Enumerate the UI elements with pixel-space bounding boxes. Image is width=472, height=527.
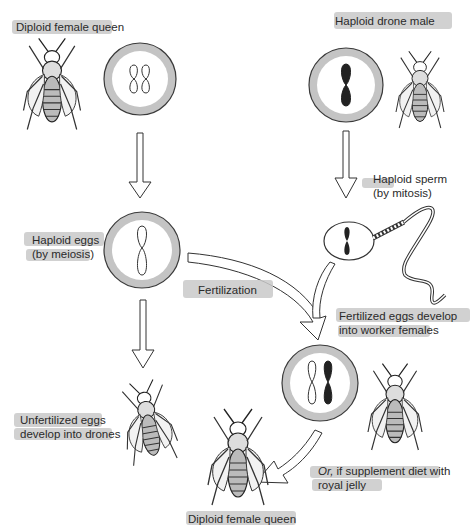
arrow-sperm-to-worker <box>313 262 335 318</box>
arrow-eggs-to-drone <box>132 300 154 368</box>
diagram-graphics <box>0 0 472 527</box>
haplodiploidy-diagram: Diploid female queen Haploid drone male … <box>0 0 472 527</box>
queen-parent-cell <box>104 43 176 115</box>
label-queen-offspring: Diploid female queen <box>188 512 296 526</box>
drone-parent-bee <box>396 51 444 128</box>
arrow-drone-to-sperm <box>335 131 357 198</box>
label-royal-jelly: Or, if supplement diet with royal jelly <box>318 464 450 492</box>
queen-offspring-bee <box>208 409 268 505</box>
queen-parent-bee <box>23 38 80 129</box>
egg-cell <box>104 212 180 288</box>
label-worker: Fertilized eggs develop into worker fema… <box>339 309 457 337</box>
label-drone-parent: Haploid drone male <box>335 14 435 28</box>
label-queen-parent: Diploid female queen <box>16 20 124 34</box>
label-fertilization: Fertilization <box>198 283 257 297</box>
worker-bee <box>368 364 422 450</box>
worker-cell <box>282 345 358 421</box>
label-drone-offspring: Unfertilized eggs develop into drones <box>20 413 120 441</box>
arrow-queen-to-eggs <box>129 133 151 198</box>
drone-parent-cell <box>309 48 383 122</box>
drone-offspring-bee <box>116 377 180 466</box>
label-eggs: Haploid eggs (by meiosis) <box>32 233 99 261</box>
sperm-cell <box>324 208 445 303</box>
label-sperm: Haploid sperm (by mitosis) <box>373 172 447 200</box>
